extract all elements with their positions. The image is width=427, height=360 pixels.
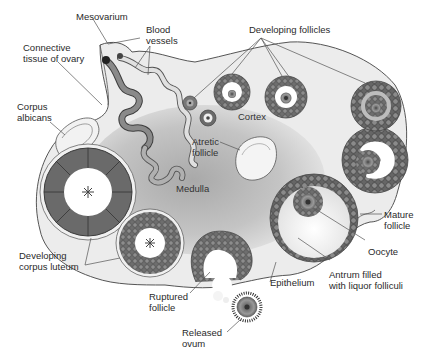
- label-medulla: Medulla: [176, 183, 209, 194]
- label-oocyte: Oocyte: [368, 246, 398, 257]
- developing-follicle-4: [351, 81, 401, 131]
- secondary-follicle-large: [342, 127, 408, 193]
- label-corpus-albicans: Corpus albicans: [17, 101, 52, 123]
- corpus-luteum-developing: [116, 209, 184, 277]
- ruptured-follicle: [191, 231, 252, 303]
- primordial-follicle-2: [200, 110, 216, 126]
- label-epithelium: Epithelium: [270, 277, 314, 288]
- label-connective-tissue: Connective tissue of ovary: [23, 42, 84, 64]
- rupture-burst: [212, 275, 232, 303]
- primordial-follicle-1: [183, 96, 197, 110]
- label-developing-corpus-luteum: Developing corpus luteum: [19, 250, 79, 272]
- label-released-ovum: Released ovum: [182, 327, 222, 349]
- label-mature-follicle: Mature follicle: [384, 209, 414, 231]
- developing-follicle-2: [214, 74, 250, 110]
- label-developing-follicles: Developing follicles: [249, 24, 330, 35]
- released-ovum: [233, 293, 261, 321]
- label-mesovarium: Mesovarium: [76, 11, 128, 22]
- label-antrum: Antrum filled with liquor folliculi: [329, 269, 403, 291]
- label-atretic-follicle: Atretic follicle: [192, 136, 219, 158]
- developing-follicle-3: [265, 76, 307, 118]
- label-blood-vessels: Blood vessels: [146, 24, 178, 46]
- label-ruptured-follicle: Ruptured follicle: [149, 291, 188, 313]
- label-cortex: Cortex: [238, 111, 266, 122]
